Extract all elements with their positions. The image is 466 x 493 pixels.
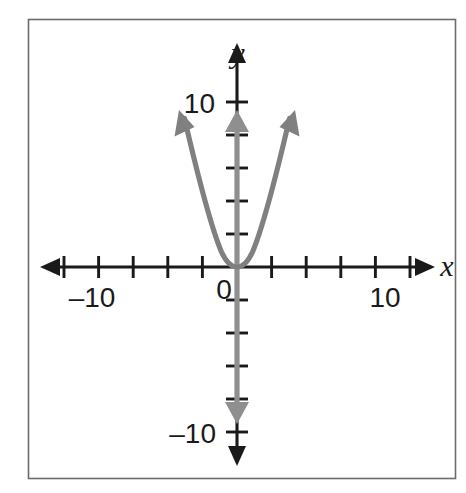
x-tick-label-10: 10 — [369, 282, 400, 313]
x-axis-label: x — [439, 249, 454, 282]
figure-root: y x 0 –10 10 10 –10 — [0, 0, 466, 493]
y-tick-label--10: –10 — [169, 418, 216, 449]
y-tick-label-10: 10 — [184, 88, 215, 119]
x-tick-label--10: –10 — [69, 282, 116, 313]
coordinate-plane-graph: y x 0 –10 10 10 –10 — [0, 0, 466, 493]
y-axis-label: y — [228, 36, 245, 69]
origin-label: 0 — [216, 274, 232, 305]
